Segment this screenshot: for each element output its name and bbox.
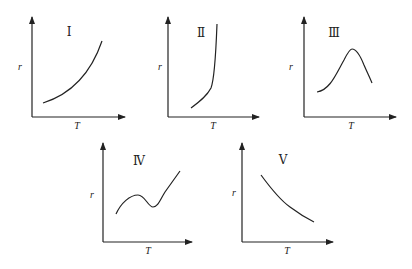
- panel-4: Ⅳ r T: [90, 143, 192, 256]
- rate-curve: [116, 171, 180, 214]
- panel-5: Ⅴ r T: [232, 143, 333, 256]
- x-axis-label: T: [145, 245, 152, 256]
- panel-label: Ⅳ: [133, 154, 146, 168]
- panel-3: Ⅲ r T: [289, 17, 396, 131]
- panel-label: Ⅱ: [197, 26, 205, 40]
- y-axis-label: r: [18, 61, 22, 72]
- panel-label: Ⅲ: [328, 26, 340, 40]
- y-axis-label: r: [289, 61, 293, 72]
- x-axis-label: T: [284, 245, 291, 256]
- rate-curve: [317, 49, 372, 92]
- panel-label: Ⅴ: [278, 153, 288, 167]
- rate-curve: [261, 175, 314, 222]
- rate-curve: [43, 41, 102, 103]
- panel-label: Ⅰ: [67, 25, 72, 39]
- rate-temperature-diagram: Ⅰ r T Ⅱ r T Ⅲ r T Ⅳ r T Ⅴ r T: [0, 0, 412, 269]
- y-axis-label: r: [90, 189, 94, 200]
- y-axis-label: r: [158, 61, 162, 72]
- x-axis-label: T: [348, 120, 355, 131]
- panel-2: Ⅱ r T: [158, 17, 259, 131]
- y-axis-label: r: [232, 187, 236, 198]
- x-axis-label: T: [210, 120, 217, 131]
- x-axis-label: T: [74, 120, 81, 131]
- panel-1: Ⅰ r T: [18, 17, 125, 131]
